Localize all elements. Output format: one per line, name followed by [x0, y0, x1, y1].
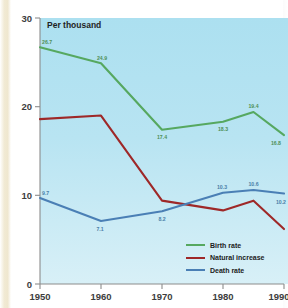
- y-axis-label-30: 30: [21, 13, 32, 24]
- legend-swatch-birth-rate: [186, 244, 205, 246]
- data-label: 19.4: [248, 103, 258, 109]
- data-labels-death-rate: 9.77.18.210.310.610.2: [42, 181, 286, 232]
- legend-item-birth-rate: Birth rate: [186, 239, 282, 252]
- legend-item-natural-increase: Natural increase: [186, 252, 282, 265]
- chart-figure: 0 10 20 30 1950 1960 1970 1980 1990 Per …: [0, 0, 288, 308]
- data-label: 10.3: [217, 184, 227, 190]
- data-label: 24.9: [97, 55, 107, 61]
- y-axis-label-20: 20: [21, 101, 32, 112]
- legend-label-birth-rate: Birth rate: [210, 242, 241, 249]
- plot-title: Per thousand: [47, 20, 101, 30]
- y-axis-label-10: 10: [21, 190, 32, 201]
- x-axis: [40, 284, 284, 289]
- data-label: 7.1: [96, 226, 103, 232]
- x-axis-label-1980: 1980: [212, 291, 233, 302]
- data-label: 9.7: [42, 190, 49, 196]
- data-label: 10.6: [248, 181, 258, 187]
- legend-label-death-rate: Death rate: [210, 267, 244, 274]
- x-axis-label-1950: 1950: [29, 291, 50, 302]
- legend-swatch-natural-increase: [186, 257, 205, 259]
- x-axis-label-1960: 1960: [90, 291, 111, 302]
- data-label: 16.8: [271, 140, 281, 146]
- chart-legend: Birth rate Natural increase Death rate: [186, 239, 282, 277]
- data-label: 17.4: [157, 134, 167, 140]
- legend-label-natural-increase: Natural increase: [210, 254, 264, 261]
- legend-item-death-rate: Death rate: [186, 264, 282, 277]
- y-axis: [35, 18, 40, 284]
- data-label: 8.2: [158, 216, 165, 222]
- y-axis-label-0: 0: [27, 279, 32, 290]
- legend-swatch-death-rate: [186, 269, 205, 271]
- data-label: 26.7: [42, 39, 52, 45]
- series-line-birth-rate: [40, 47, 284, 135]
- data-label: 18.3: [218, 126, 228, 132]
- data-label: 10.2: [276, 199, 286, 205]
- x-axis-label-1970: 1970: [151, 291, 172, 302]
- x-axis-label-1990: 1990: [268, 291, 288, 302]
